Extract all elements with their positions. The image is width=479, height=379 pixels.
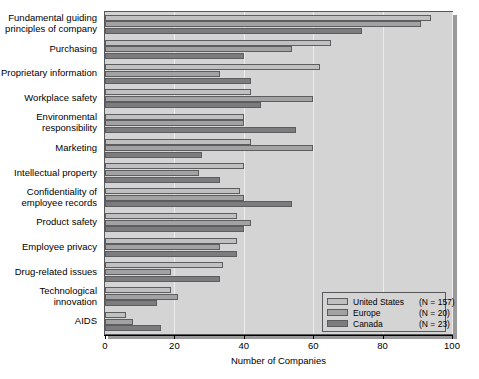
bar (105, 89, 251, 95)
y-axis-label: Purchasing (49, 43, 97, 54)
x-axis-title: Number of Companies (104, 355, 453, 366)
bar (105, 300, 157, 306)
bar-group (105, 86, 452, 111)
bar (105, 120, 244, 126)
bar (105, 213, 237, 219)
legend-label: United States (353, 297, 419, 307)
y-axis-label: Workplace safety (24, 92, 97, 103)
bar-group (105, 62, 452, 87)
gridline (452, 12, 453, 334)
y-axis-label: Proprietary information (1, 67, 97, 78)
bar (105, 145, 313, 151)
bar (105, 276, 220, 282)
x-axis-tick-label: 40 (239, 340, 250, 351)
bar (105, 40, 331, 46)
plot-area (104, 11, 453, 335)
bar-group (105, 260, 452, 285)
bar (105, 238, 237, 244)
legend-row: Canada(N = 23) (327, 318, 441, 329)
bar-group (105, 210, 452, 235)
bar (105, 96, 313, 102)
bar (105, 139, 251, 145)
bar (105, 152, 202, 158)
y-axis-label: Employee privacy (22, 241, 97, 252)
y-axis-label: Confidentiality of employee records (21, 186, 97, 208)
bar (105, 21, 421, 27)
bar (105, 46, 292, 52)
y-axis-labels: Fundamental guiding principles of compan… (0, 11, 99, 335)
bar-group (105, 235, 452, 260)
y-axis-label: Fundamental guiding principles of compan… (5, 12, 97, 34)
y-axis-label: Product safety (36, 216, 97, 227)
x-axis-tick-label: 100 (444, 340, 460, 351)
bar (105, 127, 296, 133)
bar (105, 170, 199, 176)
bar (105, 251, 237, 257)
legend-row: United States(N = 157) (327, 296, 441, 307)
legend-sample-size: (N = 23) (419, 319, 450, 329)
x-axis-tick-label: 0 (102, 340, 107, 351)
bar-group (105, 161, 452, 186)
bar (105, 312, 126, 318)
bar (105, 244, 220, 250)
legend-row: Europe(N = 20) (327, 307, 441, 318)
legend-sample-size: (N = 20) (419, 308, 450, 318)
y-axis-label: Technological innovation (39, 285, 97, 307)
legend-swatch (327, 309, 348, 316)
chart-screenshot: Fundamental guiding principles of compan… (0, 0, 479, 379)
bar (105, 262, 223, 268)
bar (105, 53, 244, 59)
bar-group (105, 185, 452, 210)
x-axis-tick-mark (452, 335, 453, 339)
bar (105, 163, 244, 169)
bar-group (105, 136, 452, 161)
bar-group (105, 37, 452, 62)
bar (105, 71, 220, 77)
y-axis-label: AIDS (75, 315, 97, 326)
x-axis-tick-label: 60 (308, 340, 319, 351)
bar (105, 114, 244, 120)
bar (105, 226, 244, 232)
x-axis-tick-mark (105, 335, 106, 339)
bar (105, 201, 292, 207)
bar (105, 325, 161, 331)
x-axis-line (104, 335, 453, 336)
y-axis-label: Marketing (55, 142, 97, 153)
x-axis-tick-mark (174, 335, 175, 339)
bar-groups (105, 12, 452, 334)
legend-label: Canada (353, 319, 419, 329)
bar (105, 319, 133, 325)
legend-label: Europe (353, 308, 419, 318)
x-axis-tick-mark (383, 335, 384, 339)
bar (105, 195, 244, 201)
bar-group (105, 12, 452, 37)
bar (105, 28, 362, 34)
legend-swatch (327, 298, 348, 305)
y-axis-label: Intellectual property (14, 167, 97, 178)
bar-group (105, 111, 452, 136)
x-axis-tick-mark (244, 335, 245, 339)
bar (105, 102, 261, 108)
bar (105, 188, 240, 194)
x-axis-tick-mark (313, 335, 314, 339)
bar (105, 287, 171, 293)
bar (105, 269, 171, 275)
y-axis-label: Environmental responsibility (36, 111, 97, 133)
legend-sample-size: (N = 157) (419, 297, 455, 307)
bar (105, 220, 251, 226)
x-axis-tick-label: 80 (377, 340, 388, 351)
bar (105, 64, 320, 70)
bar (105, 15, 431, 21)
x-axis-tick-label: 20 (169, 340, 180, 351)
bar (105, 78, 251, 84)
legend: United States(N = 157)Europe(N = 20)Cana… (322, 292, 446, 332)
bar (105, 294, 178, 300)
bar (105, 177, 220, 183)
legend-swatch (327, 320, 348, 327)
y-axis-label: Drug-related issues (15, 266, 97, 277)
